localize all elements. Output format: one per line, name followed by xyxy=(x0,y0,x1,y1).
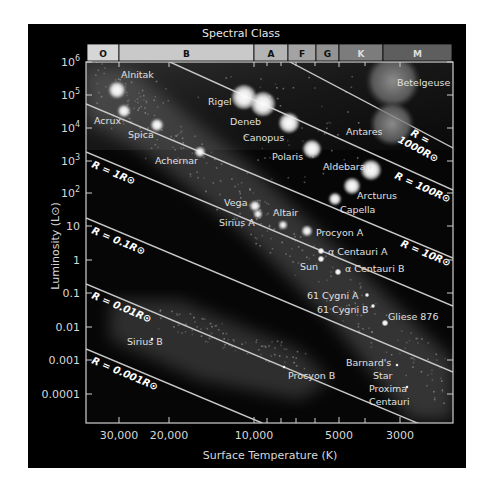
background-star-dot xyxy=(146,102,148,104)
spectral-class-label: A xyxy=(268,49,275,59)
background-star-dot xyxy=(410,357,412,359)
background-star-dot xyxy=(391,354,393,356)
background-star-dot xyxy=(434,397,436,399)
background-star-dot xyxy=(145,112,147,114)
background-star-dot xyxy=(300,236,302,238)
background-star-dot xyxy=(177,314,179,316)
background-star-dot xyxy=(283,88,285,90)
background-star-dot xyxy=(156,139,158,141)
star-label: Canopus xyxy=(243,132,284,143)
star-procyon-b xyxy=(283,366,286,369)
background-star-dot xyxy=(196,171,198,173)
star-61-cygni-b xyxy=(371,304,375,308)
background-star-dot xyxy=(270,238,272,240)
background-star-dot xyxy=(306,257,308,259)
background-star-dot xyxy=(231,178,233,180)
background-star-dot xyxy=(137,102,139,104)
star-label: Sirius B xyxy=(127,336,163,347)
background-star-dot xyxy=(221,323,223,325)
background-star-dot xyxy=(286,349,288,351)
background-star-dot xyxy=(170,136,172,138)
star-label: Vega xyxy=(224,197,247,208)
background-star-dot xyxy=(270,252,272,254)
star-label: Antares xyxy=(346,126,383,137)
background-star-dot xyxy=(129,118,131,120)
background-star-dot xyxy=(234,186,236,188)
background-star-dot xyxy=(276,87,278,89)
background-star-dot xyxy=(221,163,223,165)
background-star-dot xyxy=(218,329,220,331)
background-star-dot xyxy=(304,176,306,178)
background-star-dot xyxy=(141,106,143,108)
background-star-dot xyxy=(126,95,128,97)
background-star-dot xyxy=(103,73,105,75)
background-star-dot xyxy=(260,78,262,80)
background-star-dot xyxy=(197,177,199,179)
background-star-dot xyxy=(209,338,211,340)
background-star-dot xyxy=(277,341,279,343)
background-star-dot xyxy=(216,167,218,169)
background-star-dot xyxy=(427,359,429,361)
x-tick-label: 30,000 xyxy=(100,429,139,442)
background-star-dot xyxy=(368,327,370,329)
background-star-dot xyxy=(304,182,306,184)
background-star-dot xyxy=(118,78,120,80)
star-label: Alnitak xyxy=(121,69,154,80)
background-star-dot xyxy=(371,346,373,348)
star-label: Altair xyxy=(273,207,298,218)
background-star-dot xyxy=(226,333,228,335)
background-star-dot xyxy=(226,77,228,79)
spectral-class-label: F xyxy=(299,49,305,59)
star-deneb xyxy=(251,92,275,116)
background-star-dot xyxy=(259,200,261,202)
background-star-dot xyxy=(241,343,243,345)
background-star-dot xyxy=(286,356,288,358)
star-label: 61 Cygni A xyxy=(307,290,359,301)
background-star-dot xyxy=(326,279,328,281)
star-label: 61 Cygni B xyxy=(317,304,369,315)
background-star-dot xyxy=(192,153,194,155)
background-star-dot xyxy=(295,357,297,359)
background-star-dot xyxy=(173,138,175,140)
background-star-dot xyxy=(288,144,290,146)
star-canopus xyxy=(279,113,299,133)
background-star-dot xyxy=(260,354,262,356)
background-star-dot xyxy=(179,313,181,315)
background-star-dot xyxy=(284,361,286,363)
background-star-dot xyxy=(337,134,339,136)
background-star-dot xyxy=(143,95,145,97)
star-label: Deneb xyxy=(230,116,261,127)
background-star-dot xyxy=(435,354,437,356)
background-star-dot xyxy=(241,182,243,184)
background-star-dot xyxy=(266,202,268,204)
background-star-dot xyxy=(175,135,177,137)
background-star-dot xyxy=(358,326,360,328)
background-star-dot xyxy=(441,380,443,382)
y-tick-label: 1 xyxy=(73,254,80,267)
background-star-dot xyxy=(265,346,267,348)
background-star-dot xyxy=(271,178,273,180)
background-star-dot xyxy=(270,355,272,357)
background-star-dot xyxy=(144,107,146,109)
y-axis-title: Luminosity (L⊙) xyxy=(49,202,62,289)
background-star-dot xyxy=(412,357,414,359)
background-star-dot xyxy=(399,353,401,355)
background-star-dot xyxy=(371,342,373,344)
background-star-dot xyxy=(200,328,202,330)
star-61-cygni-a xyxy=(365,293,369,297)
x-tick-label: 3000 xyxy=(386,429,414,442)
star-vega xyxy=(250,201,260,211)
x-tick-label: 5000 xyxy=(325,429,353,442)
background-star-dot xyxy=(426,385,428,387)
background-star-dot xyxy=(267,213,269,215)
background-star-dot xyxy=(247,353,249,355)
background-star-dot xyxy=(172,147,174,149)
star-label: Acrux xyxy=(94,115,121,126)
y-tick-label: 0.0001 xyxy=(42,388,81,401)
background-star-dot xyxy=(96,83,98,85)
star-sirius-a xyxy=(254,210,262,218)
background-star-dot xyxy=(138,92,140,94)
spectral-class-label: B xyxy=(183,49,190,59)
background-star-dot xyxy=(259,245,261,247)
background-star-dot xyxy=(269,157,271,159)
